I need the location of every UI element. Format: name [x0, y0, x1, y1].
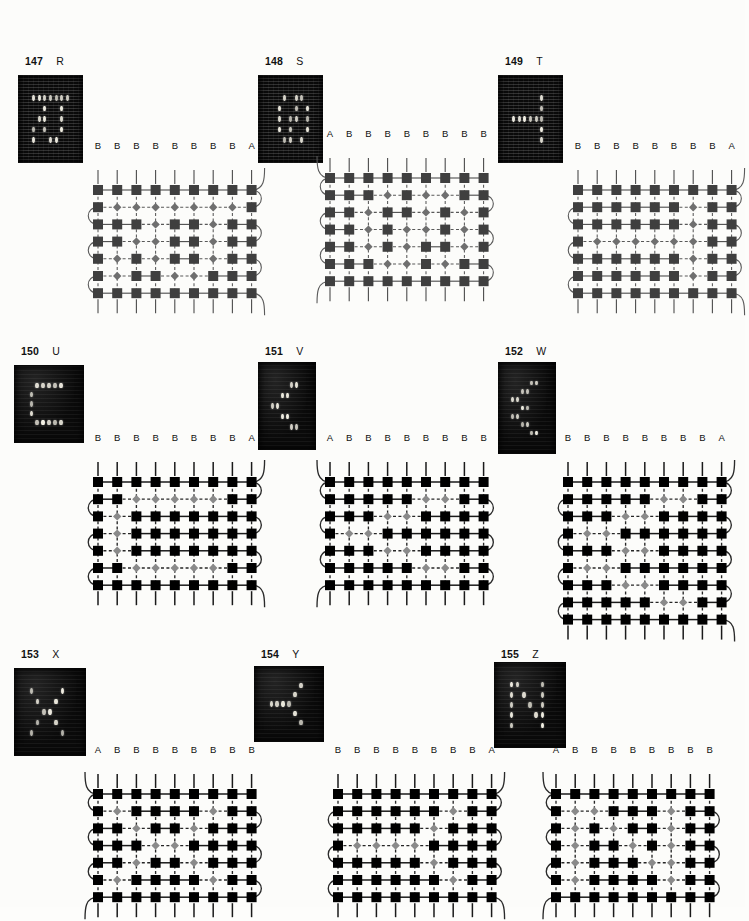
warp-label: B	[95, 140, 101, 151]
warp-label: B	[613, 140, 619, 151]
bead-dark	[363, 173, 373, 183]
warp-label: B	[706, 744, 712, 755]
bead-light	[460, 243, 468, 251]
bead-dark	[717, 546, 727, 556]
bead-dark	[151, 546, 161, 556]
bead-dark	[352, 858, 362, 868]
plate-caption: 147R	[25, 55, 64, 67]
bead-dark	[131, 254, 141, 264]
plate-number: 150	[21, 345, 39, 357]
bead-light	[151, 841, 159, 849]
bead-dark	[189, 288, 199, 298]
bead-dark	[227, 185, 237, 195]
bead-dark	[131, 841, 141, 851]
warp-label: B	[622, 432, 628, 443]
warp-label: B	[584, 432, 590, 443]
bead-dark	[325, 225, 335, 235]
bead-dark	[170, 511, 180, 521]
photo-vignette	[258, 362, 316, 450]
warp-label: B	[603, 432, 609, 443]
loom-grid	[551, 446, 739, 644]
bead-dark	[429, 789, 439, 799]
bead-dark	[227, 271, 237, 281]
bead-dark	[352, 806, 362, 816]
bead-dark	[151, 580, 161, 590]
bead-dark	[151, 806, 161, 816]
bead-dark	[609, 892, 619, 902]
bead-light	[151, 203, 159, 211]
warp-label: B	[229, 432, 235, 443]
bead-dark	[421, 259, 431, 269]
bead-light	[641, 581, 649, 589]
bead-dark	[685, 806, 695, 816]
bead-dark	[227, 254, 237, 264]
bead-dark	[227, 563, 237, 573]
bead-dark	[189, 789, 199, 799]
bead-dark	[383, 173, 393, 183]
bead-dark	[479, 563, 489, 573]
warp-label: B	[442, 128, 448, 139]
bead-light	[190, 824, 198, 832]
bead-dark	[666, 789, 676, 799]
bead-dark	[227, 789, 237, 799]
bead-dark	[93, 254, 103, 264]
bead-light	[583, 564, 591, 572]
loom-grid	[321, 758, 509, 921]
bead-dark	[650, 271, 660, 281]
bead-light	[171, 564, 179, 572]
bead-dark	[570, 892, 580, 902]
bead-dark	[344, 511, 354, 521]
plate-caption: 151V	[265, 345, 303, 357]
bead-dark	[611, 202, 621, 212]
bead-dark	[440, 580, 450, 590]
bead-dark	[344, 580, 354, 590]
bead-light	[228, 203, 236, 211]
loom-grid-wrapper	[81, 154, 269, 317]
bead-dark	[333, 892, 343, 902]
bead-dark	[659, 563, 669, 573]
plate-number: 155	[501, 648, 519, 660]
bead-dark	[170, 254, 180, 264]
bead-dark	[631, 271, 641, 281]
plate-caption: 155Z	[501, 648, 539, 660]
bead-dark	[589, 875, 599, 885]
bead-dark	[247, 841, 257, 851]
bead-dark	[707, 254, 717, 264]
bead-dark	[344, 225, 354, 235]
warp-label: B	[114, 432, 120, 443]
bead-dark	[227, 892, 237, 902]
bead-dark	[429, 892, 439, 902]
bead-light	[383, 191, 391, 199]
loom-grid	[81, 154, 269, 317]
bead-dark	[609, 841, 619, 851]
bead-dark	[467, 892, 477, 902]
bead-dark	[363, 511, 373, 521]
loom-grid-wrapper	[551, 446, 739, 644]
bead-dark	[573, 254, 583, 264]
bead-dark	[371, 806, 381, 816]
bead-dark	[112, 841, 122, 851]
warp-label: B	[373, 744, 379, 755]
bead-dark	[402, 477, 412, 487]
bead-dark	[391, 875, 401, 885]
bead-dark	[189, 529, 199, 539]
bead-light	[209, 220, 217, 228]
bead-dark	[685, 841, 695, 851]
bead-light	[621, 581, 629, 589]
bead-dark	[421, 242, 431, 252]
bead-dark	[563, 477, 573, 487]
bead-dark	[402, 276, 412, 286]
warp-label: B	[114, 744, 120, 755]
bead-light	[151, 255, 159, 263]
warp-label: B	[565, 432, 571, 443]
bead-dark	[227, 823, 237, 833]
bead-dark	[325, 190, 335, 200]
bead-dark	[573, 237, 583, 247]
bead-dark	[659, 615, 669, 625]
bead-dark	[247, 237, 257, 247]
bead-dark	[344, 242, 354, 252]
warp-label: B	[210, 744, 216, 755]
bead-dark	[640, 563, 650, 573]
bead-dark	[247, 892, 257, 902]
bead-dark	[467, 823, 477, 833]
